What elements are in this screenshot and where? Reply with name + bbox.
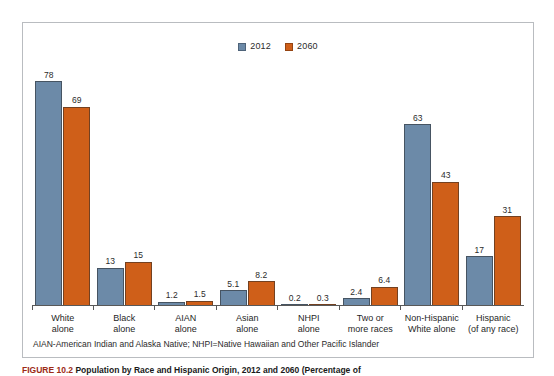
- bar-value-label: 63: [413, 114, 422, 123]
- bar-value-label: 78: [44, 71, 53, 80]
- axis-tick: [401, 306, 463, 310]
- chart-legend: 2012 2060: [23, 42, 533, 51]
- bar-value-label: 17: [475, 246, 484, 255]
- bar[interactable]: [125, 262, 152, 305]
- category-label: AIANalone: [155, 313, 217, 335]
- axis-tick: [278, 306, 340, 310]
- legend-label-2060: 2060: [297, 42, 318, 51]
- category-label-line2: alone: [278, 324, 340, 335]
- bar-value-label: 2.4: [350, 288, 362, 297]
- bar-group: 7869: [32, 61, 94, 305]
- category-label-line2: alone: [94, 324, 156, 335]
- bar-slot: 15: [125, 61, 152, 305]
- legend-swatch-2060: [285, 43, 293, 51]
- bar[interactable]: [220, 290, 247, 305]
- legend-label-2012: 2012: [250, 42, 271, 51]
- figure-caption-text: Population by Race and Hispanic Origin, …: [75, 365, 360, 375]
- bar-group: 1731: [463, 61, 525, 305]
- legend-entry-2012: 2012: [238, 42, 271, 51]
- category-label-line2: (of any race): [463, 324, 525, 335]
- bar-group: 0.20.3: [278, 61, 340, 305]
- bar-value-label: 69: [72, 96, 81, 105]
- category-label: Asianalone: [217, 313, 279, 335]
- bar-slot: 1.5: [186, 61, 213, 305]
- axis-tick: [340, 306, 402, 310]
- bar[interactable]: [63, 107, 90, 305]
- category-label-line1: Asian: [236, 313, 259, 323]
- category-label-line1: Non-Hispanic: [405, 313, 459, 323]
- plot-area: 786913151.21.55.18.20.20.32.46.463431731: [32, 61, 524, 305]
- figure-panel: 2012 2060 786913151.21.55.18.20.20.32.46…: [22, 22, 534, 358]
- chart-footnote: AIAN-American Indian and Alaska Native; …: [33, 339, 379, 349]
- category-label-line2: White alone: [401, 324, 463, 335]
- bar-value-label: 1.5: [194, 290, 206, 299]
- x-axis-category-labels: WhitealoneBlackaloneAIANaloneAsianaloneN…: [32, 313, 524, 335]
- bar-slot: 78: [35, 61, 62, 305]
- category-label: Two ormore races: [340, 313, 402, 335]
- axis-tick: [463, 306, 525, 310]
- bar[interactable]: [343, 298, 370, 305]
- bar[interactable]: [466, 256, 493, 305]
- legend-swatch-2012: [238, 43, 246, 51]
- bar-slot: 0.3: [309, 61, 336, 305]
- category-label-line1: White: [51, 313, 74, 323]
- bar-value-label: 5.1: [227, 280, 239, 289]
- category-label-line1: AIAN: [175, 313, 196, 323]
- bar-slot: 69: [63, 61, 90, 305]
- bar-slot: 1.2: [158, 61, 185, 305]
- bar[interactable]: [432, 182, 459, 305]
- category-label: Non-HispanicWhite alone: [401, 313, 463, 335]
- bar[interactable]: [97, 268, 124, 305]
- bar-value-label: 8.2: [255, 271, 267, 280]
- bar-slot: 43: [432, 61, 459, 305]
- axis-tick: [217, 306, 279, 310]
- bar[interactable]: [35, 81, 62, 305]
- category-label-line2: alone: [217, 324, 279, 335]
- category-label-line2: alone: [155, 324, 217, 335]
- bar-group: 2.46.4: [340, 61, 402, 305]
- bar-slot: 17: [466, 61, 493, 305]
- bar-slot: 63: [404, 61, 431, 305]
- figure-number: FIGURE 10.2: [22, 365, 73, 375]
- bar-value-label: 1.2: [166, 291, 178, 300]
- bar-slot: 0.2: [281, 61, 308, 305]
- bar-slot: 6.4: [371, 61, 398, 305]
- bar[interactable]: [494, 216, 521, 305]
- bar-value-label: 0.2: [289, 294, 301, 303]
- category-label-line1: Two or: [357, 313, 384, 323]
- category-label: Blackalone: [94, 313, 156, 335]
- bar-value-label: 6.4: [378, 276, 390, 285]
- bar-group: 6343: [401, 61, 463, 305]
- figure-caption: FIGURE 10.2 Population by Race and Hispa…: [22, 365, 542, 376]
- category-label-line2: alone: [32, 324, 94, 335]
- category-label-line1: Hispanic: [476, 313, 511, 323]
- bar-slot: 31: [494, 61, 521, 305]
- category-label: Whitealone: [32, 313, 94, 335]
- bar-group: 5.18.2: [217, 61, 279, 305]
- bar-slot: 13: [97, 61, 124, 305]
- bar-value-label: 43: [441, 171, 450, 180]
- category-label: Hispanic(of any race): [463, 313, 525, 335]
- category-label-line2: more races: [340, 324, 402, 335]
- category-label: NHPIalone: [278, 313, 340, 335]
- category-label-line1: NHPI: [298, 313, 320, 323]
- bar-groups: 786913151.21.55.18.20.20.32.46.463431731: [32, 61, 524, 305]
- bar-value-label: 0.3: [317, 294, 329, 303]
- bar-slot: 8.2: [248, 61, 275, 305]
- bar-value-label: 15: [134, 251, 143, 260]
- bar-value-label: 13: [106, 257, 115, 266]
- bar-value-label: 31: [503, 206, 512, 215]
- x-axis-ticks: [32, 306, 524, 310]
- category-label-line1: Black: [113, 313, 135, 323]
- bar[interactable]: [371, 287, 398, 305]
- bar[interactable]: [248, 281, 275, 305]
- bar-group: 1.21.5: [155, 61, 217, 305]
- bar-slot: 2.4: [343, 61, 370, 305]
- bar-group: 1315: [94, 61, 156, 305]
- bar-slot: 5.1: [220, 61, 247, 305]
- bar[interactable]: [404, 124, 431, 305]
- legend-entry-2060: 2060: [285, 42, 318, 51]
- axis-tick: [94, 306, 156, 310]
- axis-tick: [32, 306, 94, 310]
- axis-tick: [155, 306, 217, 310]
